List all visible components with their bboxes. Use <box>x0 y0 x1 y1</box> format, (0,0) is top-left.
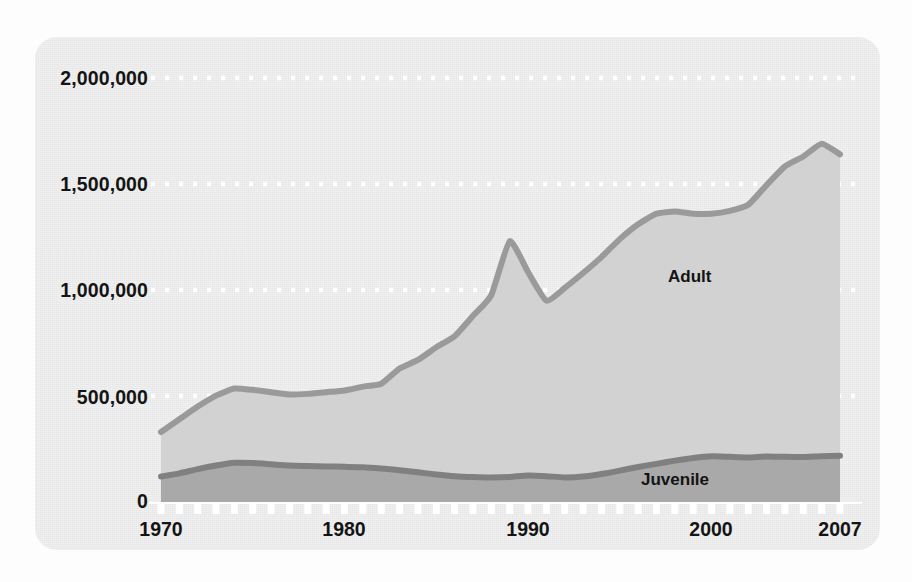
y-tick-label-0: 0 <box>8 490 148 513</box>
x-tick-label-2000: 2000 <box>661 518 761 541</box>
y-tick-label-500000: 500,000 <box>8 386 148 409</box>
x-tick-label-2007: 2007 <box>790 518 890 541</box>
x-tick-label-1970: 1970 <box>111 518 211 541</box>
x-tick-label-1980: 1980 <box>294 518 394 541</box>
series-label-juvenile: Juvenile <box>641 470 709 490</box>
adult-area-fill <box>161 144 840 478</box>
series-label-adult: Adult <box>668 267 711 287</box>
x-axis-ticks-group <box>147 503 862 515</box>
y-tick-label-1000000: 1,000,000 <box>8 279 148 302</box>
x-tick-label-1990: 1990 <box>478 518 578 541</box>
y-tick-label-2000000: 2,000,000 <box>8 67 148 90</box>
y-tick-label-1500000: 1,500,000 <box>8 173 148 196</box>
areas-group <box>161 144 840 502</box>
